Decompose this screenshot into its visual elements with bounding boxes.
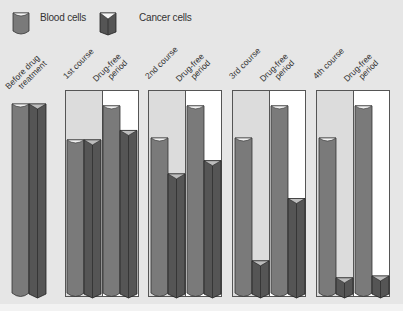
blood-cell-bar bbox=[151, 138, 168, 296]
blood-cell-bar bbox=[235, 138, 252, 296]
blood-cell-bar bbox=[12, 104, 29, 297]
blood-cell-bar bbox=[355, 106, 372, 297]
blood-cell-bar bbox=[103, 106, 120, 297]
blood-cell-bar bbox=[319, 138, 336, 296]
cancer-cell-bar bbox=[168, 174, 185, 298]
cancer-cell-bar bbox=[84, 140, 101, 298]
cancer-cell-bar bbox=[288, 199, 305, 299]
bottom-strip bbox=[0, 304, 403, 311]
cancer-cell-bar bbox=[29, 104, 46, 298]
cancer-cell-bar bbox=[336, 278, 353, 298]
blood-cell-bar bbox=[271, 106, 288, 297]
cancer-cell-bar bbox=[204, 161, 221, 298]
bars-layer bbox=[0, 0, 403, 311]
cancer-cell-bar bbox=[372, 276, 389, 298]
blood-cell-bar bbox=[187, 106, 204, 297]
cancer-cell-bar bbox=[120, 130, 137, 298]
blood-cell-bar bbox=[67, 140, 84, 297]
cancer-cell-bar bbox=[252, 261, 269, 298]
